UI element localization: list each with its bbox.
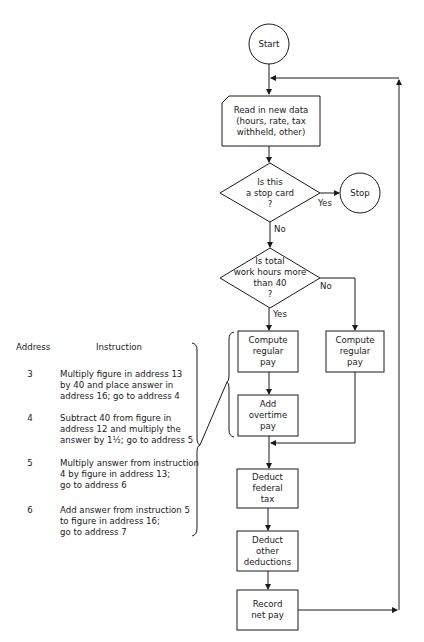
hours-question: Is total work hours more than 40 ? <box>222 253 318 303</box>
instruction-text: Multiply figure in address 13 by 40 and … <box>60 369 260 402</box>
read-data-label: Read in new data (hours, rate, tax withh… <box>222 96 320 146</box>
address-header: Address <box>16 342 50 352</box>
hours-no-label: No <box>320 281 332 291</box>
stop-no-label: No <box>274 224 286 234</box>
instruction-text: Add answer from instruction 5 to figure … <box>60 505 260 538</box>
stop-label: Stop <box>340 183 380 203</box>
compute-regular-pay-right: Compute regular pay <box>326 331 384 372</box>
compute-regular-pay-left: Compute regular pay <box>238 331 298 372</box>
address-value: 5 <box>20 458 40 468</box>
address-value: 3 <box>20 369 40 379</box>
flowchart-lines <box>0 0 424 642</box>
start-label: Start <box>249 34 289 54</box>
instruction-text: Subtract 40 from figure in address 12 an… <box>60 413 260 446</box>
address-value: 4 <box>20 413 40 423</box>
instruction-header: Instruction <box>96 342 142 352</box>
stop-yes-label: Yes <box>318 198 332 208</box>
record-net-pay: Record net pay <box>237 590 298 630</box>
hours-yes-label: Yes <box>273 309 287 319</box>
stop-card-question: Is this a stop card ? <box>230 169 310 217</box>
address-value: 6 <box>20 505 40 515</box>
instruction-text: Multiply answer from instruction 4 by fi… <box>60 458 260 491</box>
